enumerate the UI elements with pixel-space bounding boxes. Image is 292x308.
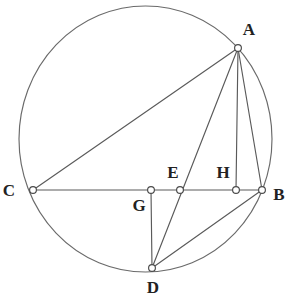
point-marker-c	[30, 187, 37, 194]
segment-CA	[33, 48, 238, 190]
point-marker-g	[148, 187, 155, 194]
labels-layer: ABCDEGH	[3, 20, 285, 297]
segment-AD	[152, 48, 238, 268]
geometry-canvas: ABCDEGH	[0, 0, 292, 308]
main-circle	[19, 6, 272, 272]
point-label-c: C	[3, 181, 15, 200]
point-label-a: A	[243, 20, 256, 39]
point-label-b: B	[273, 185, 284, 204]
point-marker-b	[259, 187, 266, 194]
point-marker-a	[235, 45, 242, 52]
segments-layer	[33, 48, 262, 268]
point-label-h: H	[216, 163, 229, 182]
point-label-e: E	[167, 163, 178, 182]
point-marker-e	[177, 187, 184, 194]
point-marker-d	[149, 265, 156, 272]
geometry-diagram: ABCDEGH	[0, 0, 292, 308]
point-label-d: D	[147, 278, 159, 297]
segment-GD	[151, 190, 152, 268]
circle-layer	[19, 6, 272, 272]
segment-AB	[238, 48, 262, 190]
segment-DB	[152, 190, 262, 268]
point-label-g: G	[132, 196, 145, 215]
point-marker-h	[233, 187, 240, 194]
segment-AH	[236, 48, 238, 190]
